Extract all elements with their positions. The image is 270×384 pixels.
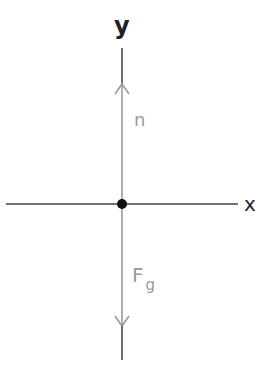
- normal-force-label: n: [134, 109, 145, 130]
- gravity-force-arrow: [115, 204, 129, 326]
- normal-force-arrow: [115, 84, 129, 204]
- gravity-force-label: Fg: [132, 263, 155, 294]
- object-dot: [117, 199, 127, 209]
- x-axis-label: x: [244, 192, 256, 216]
- y-axis-label: y: [114, 12, 130, 40]
- gravity-force-symbol: F: [132, 263, 144, 287]
- gravity-force-subscript: g: [146, 276, 156, 294]
- free-body-diagram: x y n Fg: [0, 0, 270, 384]
